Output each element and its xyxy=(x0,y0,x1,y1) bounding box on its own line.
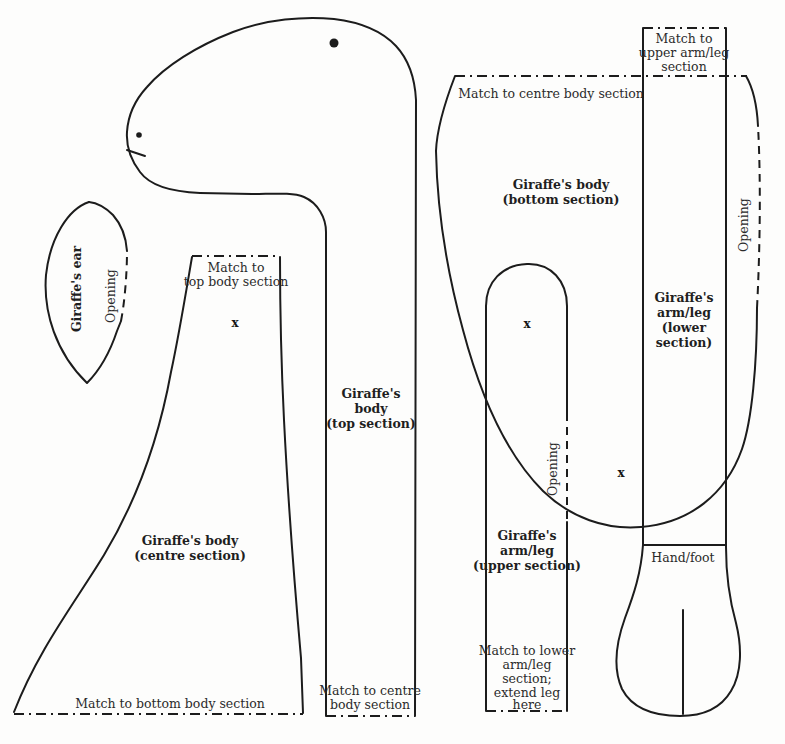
arm-upper-label-line3: (upper section) xyxy=(473,558,581,573)
arm-lower-label-line3: (lower xyxy=(662,320,707,335)
piece-body-top-section: Giraffe's body (top section) Match to ce… xyxy=(127,18,421,716)
centre-section-label-line2: (centre section) xyxy=(134,548,246,563)
centre-section-match-top-line2: top body section xyxy=(184,274,289,289)
arm-lower-match-note-line2: upper arm/leg xyxy=(639,45,729,60)
top-section-match-note-line2: body section xyxy=(330,697,410,712)
arm-upper-match-note-line3: section; xyxy=(502,671,552,686)
arm-lower-outline xyxy=(617,28,740,716)
hand-foot-label: Hand/foot xyxy=(651,550,714,565)
pattern-sheet: Giraffe's ear Opening Giraffe's body (to… xyxy=(0,0,785,744)
arm-upper-opening-label: Opening xyxy=(545,442,560,496)
arm-lower-label-line4: section) xyxy=(656,335,712,350)
arm-lower-match-note-line1: Match to xyxy=(656,31,713,46)
giraffe-pattern-diagram: Giraffe's ear Opening Giraffe's body (to… xyxy=(0,0,785,744)
arm-upper-match-note-line5: here xyxy=(513,697,542,712)
centre-section-match-top-line1: Match to xyxy=(208,260,265,275)
arm-lower-label-line2: arm/leg xyxy=(657,305,711,320)
arm-lower-match-note-line3: section xyxy=(661,59,706,74)
bottom-section-match-top-note: Match to centre body section xyxy=(458,86,644,101)
arm-upper-label-line2: arm/leg xyxy=(500,543,554,558)
arm-upper-match-note-line1: Match to lower xyxy=(479,643,575,658)
centre-section-cross-mark: x xyxy=(231,316,239,330)
centre-section-label-line1: Giraffe's body xyxy=(142,533,239,548)
bottom-section-cross-mark: x xyxy=(617,466,625,480)
piece-giraffe-ear: Giraffe's ear Opening xyxy=(46,202,127,383)
arm-upper-cross-mark: x xyxy=(523,317,531,331)
bottom-section-top-right-corner xyxy=(746,76,758,126)
arm-upper-match-note-line2: arm/leg xyxy=(503,657,552,672)
piece-arm-leg-lower-section: Match to upper arm/leg section Giraffe's… xyxy=(617,28,740,716)
ear-opening-label: Opening xyxy=(103,269,118,323)
ear-outline-top xyxy=(89,202,127,251)
bottom-section-opening-dashed-edge xyxy=(757,126,760,308)
head-neck-outline xyxy=(127,18,416,716)
centre-section-left-edge xyxy=(14,257,192,712)
arm-lower-label-line1: Giraffe's xyxy=(654,290,713,305)
top-section-label-line2: body xyxy=(354,401,388,416)
centre-section-match-bottom-note: Match to bottom body section xyxy=(75,696,265,711)
eye-dot xyxy=(330,39,339,48)
top-section-label-line3: (top section) xyxy=(326,416,416,431)
top-section-match-note-line1: Match to centre xyxy=(319,683,421,698)
centre-section-right-edge xyxy=(280,257,303,713)
top-section-label-line1: Giraffe's xyxy=(341,386,400,401)
bottom-section-label-line2: (bottom section) xyxy=(503,192,620,207)
ear-label: Giraffe's ear xyxy=(69,246,84,333)
arm-upper-label-line1: Giraffe's xyxy=(497,528,556,543)
piece-body-centre-section: Match to top body section x Giraffe's bo… xyxy=(14,256,303,714)
bottom-section-opening-label: Opening xyxy=(736,198,751,252)
bottom-section-label-line1: Giraffe's body xyxy=(513,177,610,192)
nostril-dot xyxy=(136,132,142,138)
piece-arm-leg-upper-section: x Opening Giraffe's arm/leg (upper secti… xyxy=(473,264,581,712)
ear-opening-dashed-edge xyxy=(121,251,127,321)
